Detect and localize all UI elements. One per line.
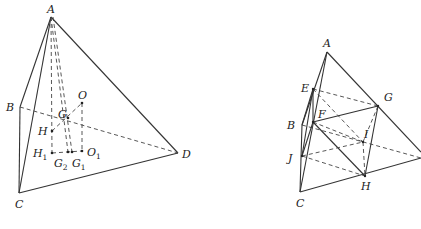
point-i [362,141,364,143]
label-j: J [286,152,293,165]
line-f-i [313,122,363,142]
label-g1: G1 [72,157,86,172]
line-e-j [302,89,313,156]
label-i: I [363,128,369,141]
line-j-i [302,142,363,156]
point-o [81,102,84,105]
label-b: B [5,101,14,114]
point-h [364,175,366,177]
edge-ad [327,52,421,152]
point-h1 [51,152,54,155]
label-e: E [300,82,309,95]
label-f: F [317,108,326,121]
geometry-figures: A B C D O G H H1 G2 G1 O1 [0,0,421,229]
label-o: O [78,89,87,102]
point-g [377,105,379,107]
edge-ad [51,17,178,153]
label-h: H [37,125,48,138]
label-a: A [46,3,55,16]
point-o1 [81,150,84,153]
label-g2: G2 [54,157,68,172]
line-e-g [313,89,378,106]
edge-ab [20,17,51,107]
point-j [301,155,303,157]
line-a-h1 [51,17,52,153]
point-g1 [71,151,74,154]
left-tetrahedron: A B C D O G H H1 G2 G1 O1 [5,3,191,211]
edge-ac [19,17,51,193]
label-h1: H1 [32,147,47,162]
point-e [312,88,314,90]
label-g: G [384,91,393,104]
line-a-g2 [51,17,68,152]
label-c: C [15,198,24,211]
label-d: D [181,148,191,161]
point-g [67,117,70,120]
edge-bc [19,107,20,193]
label-o1: O1 [87,146,101,161]
point-f [312,121,314,123]
line-a-g1 [53,17,72,152]
label-g: G [58,108,67,121]
label-h: H [360,180,371,193]
line-g-h [365,106,378,176]
label-b: B [286,119,295,132]
line-i-h [363,142,365,176]
point-g2 [67,151,70,154]
right-tetrahedron: A B C E F G H I J [286,37,421,210]
point-h [51,130,54,133]
label-c: C [296,197,305,210]
label-a: A [322,37,331,50]
